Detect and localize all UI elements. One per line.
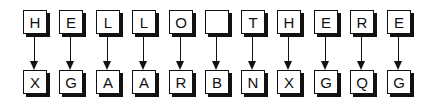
plaintext-box: E <box>59 10 83 34</box>
mapping-column: L A <box>132 0 162 104</box>
arrow-down-icon <box>212 61 220 70</box>
mapping-column: L A <box>96 0 126 104</box>
arrow-down-icon <box>284 61 292 70</box>
arrow-line <box>216 34 217 62</box>
mapping-column: R Q <box>350 0 380 104</box>
ciphertext-box: G <box>387 70 411 94</box>
arrow-down-icon <box>66 61 74 70</box>
ciphertext-box: G <box>59 70 83 94</box>
arrow-line <box>398 34 399 62</box>
mapping-column: O R <box>169 0 199 104</box>
ciphertext-box: X <box>277 70 301 94</box>
arrow-line <box>252 34 253 62</box>
mapping-column: H X <box>23 0 53 104</box>
arrow-down-icon <box>30 61 38 70</box>
ciphertext-box: R <box>169 70 193 94</box>
plaintext-box: H <box>277 10 301 34</box>
mapping-column: B <box>205 0 235 104</box>
plaintext-box: E <box>314 10 338 34</box>
plaintext-box: L <box>96 10 120 34</box>
plaintext-box: O <box>169 10 193 34</box>
mapping-column: E G <box>314 0 344 104</box>
mapping-column: E G <box>387 0 417 104</box>
arrow-down-icon <box>321 61 329 70</box>
plaintext-box: R <box>350 10 374 34</box>
ciphertext-box: N <box>241 70 265 94</box>
mapping-column: T N <box>241 0 271 104</box>
ciphertext-box: X <box>23 70 47 94</box>
arrow-down-icon <box>248 61 256 70</box>
arrow-down-icon <box>139 61 147 70</box>
arrow-line <box>143 34 144 62</box>
ciphertext-box: G <box>314 70 338 94</box>
mapping-column: H X <box>277 0 307 104</box>
arrow-down-icon <box>103 61 111 70</box>
arrow-line <box>288 34 289 62</box>
plaintext-box: T <box>241 10 265 34</box>
ciphertext-box: A <box>96 70 120 94</box>
arrow-line <box>107 34 108 62</box>
arrow-down-icon <box>176 61 184 70</box>
arrow-line <box>180 34 181 62</box>
arrow-line <box>34 34 35 62</box>
plaintext-box: E <box>387 10 411 34</box>
ciphertext-box: B <box>205 70 229 94</box>
arrow-down-icon <box>357 61 365 70</box>
plaintext-box: H <box>23 10 47 34</box>
plaintext-box-space <box>205 10 229 34</box>
ciphertext-box: A <box>132 70 156 94</box>
mapping-column: E G <box>59 0 89 104</box>
ciphertext-box: Q <box>350 70 374 94</box>
arrow-down-icon <box>394 61 402 70</box>
plaintext-box: L <box>132 10 156 34</box>
arrow-line <box>70 34 71 62</box>
arrow-line <box>361 34 362 62</box>
arrow-line <box>325 34 326 62</box>
